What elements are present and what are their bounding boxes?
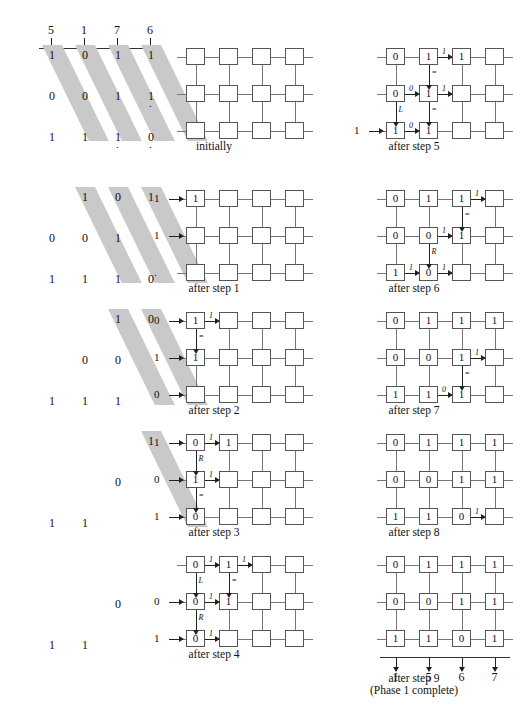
mesh-cell[interactable]: 1 [485, 312, 504, 329]
mesh-cell[interactable] [252, 471, 271, 488]
mesh-cell[interactable] [219, 349, 238, 366]
mesh-cell[interactable] [285, 122, 304, 139]
mesh-cell[interactable]: 1 [419, 556, 438, 573]
mesh-cell[interactable]: 0 [386, 349, 405, 366]
mesh-cell[interactable] [186, 85, 205, 102]
mesh-cell[interactable] [285, 556, 304, 573]
mesh-cell[interactable] [285, 349, 304, 366]
mesh-cell[interactable]: 1 [419, 508, 438, 525]
mesh-cell[interactable]: 0 [419, 349, 438, 366]
mesh-cell[interactable]: 1 [452, 471, 471, 488]
mesh-cell[interactable]: 1 [386, 630, 405, 647]
mesh-cell[interactable] [285, 630, 304, 647]
mesh-cell[interactable] [285, 312, 304, 329]
mesh-cell[interactable] [252, 593, 271, 610]
mesh-cell[interactable]: 1 [485, 434, 504, 451]
mesh-cell[interactable]: 1 [186, 312, 205, 329]
mesh-cell[interactable] [252, 349, 271, 366]
mesh-cell[interactable] [219, 471, 238, 488]
mesh-cell[interactable] [285, 386, 304, 403]
mesh-cell[interactable] [219, 190, 238, 207]
mesh-cell[interactable]: 0 [386, 312, 405, 329]
mesh-cell[interactable]: 0 [386, 48, 405, 65]
mesh-cell[interactable] [285, 48, 304, 65]
mesh-cell[interactable]: 0 [386, 227, 405, 244]
mesh-cell[interactable]: 0 [419, 593, 438, 610]
mesh-cell[interactable]: 1 [219, 556, 238, 573]
mesh-cell[interactable]: 0 [386, 556, 405, 573]
mesh-cell[interactable]: 1 [386, 508, 405, 525]
mesh-cell[interactable]: 1 [452, 190, 471, 207]
mesh-cell[interactable]: 1 [419, 312, 438, 329]
mesh-cell[interactable]: 1 [485, 556, 504, 573]
mesh-cell[interactable] [485, 85, 504, 102]
mesh-cell[interactable] [219, 264, 238, 281]
mesh-cell[interactable]: 1 [419, 434, 438, 451]
mesh-cell[interactable] [285, 85, 304, 102]
mesh-cell[interactable]: 0 [386, 471, 405, 488]
mesh-cell[interactable] [219, 630, 238, 647]
mesh-cell[interactable] [485, 386, 504, 403]
mesh-cell[interactable]: 0 [386, 85, 405, 102]
mesh-cell[interactable] [186, 48, 205, 65]
mesh-cell[interactable] [219, 227, 238, 244]
mesh-cell[interactable]: 0 [386, 190, 405, 207]
mesh-cell[interactable] [252, 434, 271, 451]
mesh-cell[interactable]: 0 [186, 556, 205, 573]
mesh-cell[interactable]: 0 [419, 471, 438, 488]
mesh-cell[interactable] [186, 227, 205, 244]
mesh-cell[interactable] [252, 227, 271, 244]
mesh-cell[interactable] [285, 593, 304, 610]
mesh-cell[interactable]: 1 [485, 471, 504, 488]
mesh-cell[interactable]: 1 [452, 312, 471, 329]
mesh-cell[interactable] [252, 556, 271, 573]
mesh-cell[interactable]: 1 [485, 630, 504, 647]
mesh-cell[interactable] [252, 312, 271, 329]
mesh-cell[interactable]: 1 [419, 48, 438, 65]
mesh-cell[interactable]: 0 [452, 630, 471, 647]
mesh-cell[interactable]: 0 [186, 434, 205, 451]
mesh-cell[interactable]: 1 [452, 556, 471, 573]
mesh-cell[interactable] [186, 264, 205, 281]
mesh-cell[interactable] [219, 386, 238, 403]
mesh-cell[interactable]: 0 [452, 508, 471, 525]
mesh-cell[interactable]: 0 [386, 434, 405, 451]
mesh-cell[interactable] [285, 434, 304, 451]
mesh-cell[interactable]: 1 [419, 190, 438, 207]
mesh-cell[interactable] [219, 48, 238, 65]
mesh-cell[interactable] [252, 508, 271, 525]
mesh-cell[interactable] [485, 227, 504, 244]
mesh-cell[interactable]: 0 [386, 593, 405, 610]
mesh-cell[interactable]: 1 [452, 593, 471, 610]
mesh-cell[interactable]: 1 [452, 349, 471, 366]
mesh-cell[interactable] [219, 312, 238, 329]
mesh-cell[interactable]: 1 [452, 434, 471, 451]
mesh-cell[interactable] [252, 122, 271, 139]
mesh-cell[interactable] [219, 85, 238, 102]
mesh-cell[interactable]: 0 [419, 227, 438, 244]
mesh-cell[interactable] [219, 122, 238, 139]
mesh-cell[interactable]: 1 [219, 434, 238, 451]
mesh-cell[interactable] [485, 508, 504, 525]
mesh-cell[interactable] [485, 190, 504, 207]
mesh-cell[interactable] [186, 122, 205, 139]
mesh-cell[interactable] [252, 630, 271, 647]
mesh-cell[interactable] [252, 48, 271, 65]
mesh-cell[interactable]: 1 [452, 48, 471, 65]
mesh-cell[interactable] [485, 349, 504, 366]
mesh-cell[interactable] [485, 122, 504, 139]
mesh-cell[interactable] [186, 386, 205, 403]
mesh-cell[interactable] [452, 85, 471, 102]
mesh-cell[interactable] [252, 264, 271, 281]
mesh-cell[interactable]: 1 [419, 630, 438, 647]
mesh-cell[interactable] [452, 122, 471, 139]
mesh-cell[interactable] [285, 190, 304, 207]
mesh-cell[interactable]: 1 [419, 386, 438, 403]
mesh-cell[interactable] [252, 386, 271, 403]
mesh-cell[interactable] [452, 264, 471, 281]
mesh-cell[interactable] [285, 471, 304, 488]
mesh-cell[interactable] [285, 264, 304, 281]
mesh-cell[interactable]: 1 [186, 190, 205, 207]
mesh-cell[interactable] [485, 264, 504, 281]
mesh-cell[interactable] [285, 508, 304, 525]
